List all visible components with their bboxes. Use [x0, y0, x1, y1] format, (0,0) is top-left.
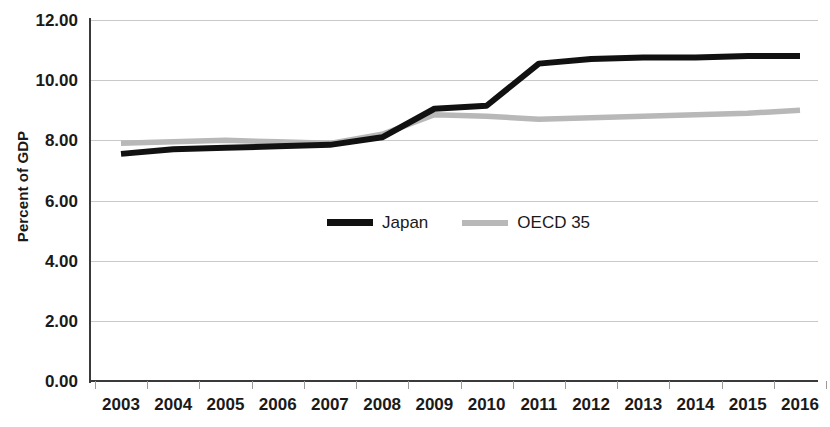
legend-item[interactable]: Japan	[327, 214, 428, 231]
x-axis-tick-label: 2013	[624, 396, 662, 415]
x-axis-tick-label: 2011	[520, 396, 557, 415]
legend-label: OECD 35	[517, 214, 590, 231]
x-axis-tick-label: 2008	[363, 396, 401, 415]
x-axis-tick-label: 2009	[415, 396, 453, 415]
x-axis-tick	[513, 381, 514, 389]
x-axis-tick-label: 2010	[468, 396, 506, 415]
series-line	[121, 110, 800, 143]
series-lines	[91, 20, 818, 381]
legend-label: Japan	[382, 214, 428, 231]
x-axis-tick	[356, 381, 357, 389]
x-axis-tick	[617, 381, 618, 389]
y-axis-tick-label: 12.00	[35, 12, 78, 29]
x-axis-tick-label: 2012	[572, 396, 610, 415]
x-axis-tick-label: 2003	[102, 396, 140, 415]
x-axis-tick	[565, 381, 566, 389]
x-axis-tick	[774, 381, 775, 389]
x-axis-tick-label: 2016	[781, 396, 819, 415]
x-axis-tick	[304, 381, 305, 389]
y-axis-tick-label: 4.00	[45, 252, 78, 269]
x-axis-tick	[408, 381, 409, 389]
x-axis-tick-labels: 2003200420052006200720082009201020112012…	[0, 396, 830, 424]
legend-item[interactable]: OECD 35	[462, 214, 590, 231]
x-axis-tick-label: 2004	[154, 396, 192, 415]
x-axis-tick	[147, 381, 148, 389]
plot-area	[91, 20, 818, 381]
x-axis-tick	[722, 381, 723, 389]
x-axis-ticks	[0, 381, 830, 389]
x-axis-tick	[199, 381, 200, 389]
y-axis-tick-labels: 12.0010.008.006.004.002.000.00	[0, 0, 84, 427]
x-axis-tick	[669, 381, 670, 389]
x-axis-tick-label: 2006	[259, 396, 297, 415]
legend-swatch-icon	[327, 219, 373, 226]
legend-swatch-icon	[462, 220, 508, 226]
x-axis-tick-label: 2014	[677, 396, 715, 415]
y-axis-tick-label: 10.00	[35, 72, 78, 89]
chart-legend: JapanOECD 35	[327, 214, 590, 231]
x-axis-tick	[95, 381, 96, 389]
x-axis-tick	[826, 381, 827, 389]
x-axis-tick	[252, 381, 253, 389]
line-chart: Percent of GDP 12.0010.008.006.004.002.0…	[0, 0, 830, 427]
x-axis-tick-label: 2007	[311, 396, 349, 415]
x-axis-tick-label: 2005	[207, 396, 245, 415]
x-axis-tick	[461, 381, 462, 389]
y-axis-tick-label: 2.00	[45, 312, 78, 329]
y-axis-tick-label: 6.00	[45, 192, 78, 209]
x-axis-tick-label: 2015	[729, 396, 767, 415]
y-axis-tick-label: 8.00	[45, 132, 78, 149]
